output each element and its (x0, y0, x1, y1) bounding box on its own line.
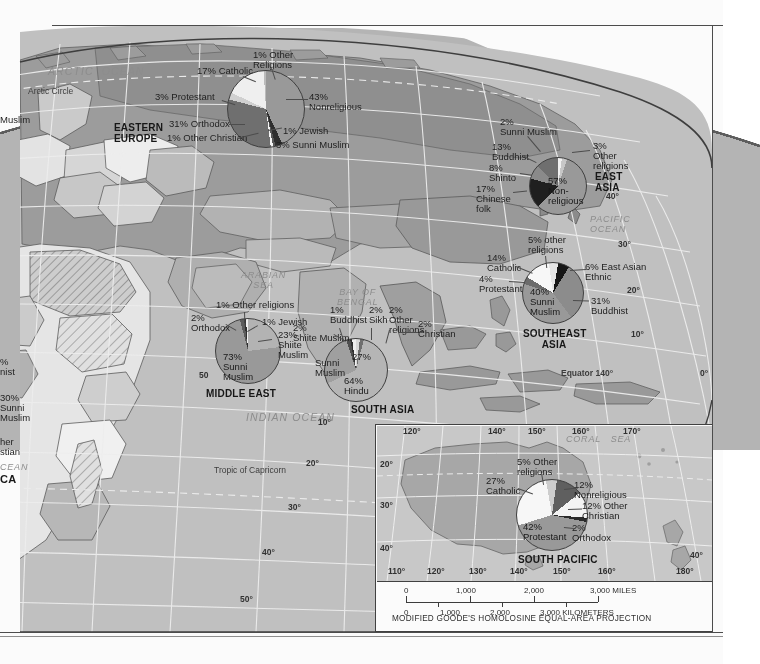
inset-longitude-120-bot: 120° (427, 567, 445, 576)
label-ea-shinto: 8% Shinto (489, 163, 516, 183)
label-ee-protestant: 3% Protestant (155, 92, 215, 102)
label-sea-other-religions: 5% other religions (528, 235, 566, 255)
clipped-label-sunni-muslim: 30% Sunni Muslim (0, 393, 30, 423)
inset-longitude-160-top: 160° (572, 427, 590, 436)
geo-label-equator: Equator 140° (561, 369, 613, 378)
latitude-label-40n: 40° (606, 192, 619, 201)
label-ee-orthodox: 31% Orthodox (169, 119, 230, 129)
inset-south-pacific: SOUTH PACIFIC 5% Other religions 27% Cat… (375, 424, 713, 632)
label-ee-nonreligious: 43% Nonreligious (309, 92, 362, 112)
projection-label: MODIFIED GOODE'S HOMOLOSINE EQUAL-AREA P… (392, 615, 651, 624)
page-border-right (712, 25, 713, 633)
region-label-middle-east: MIDDLE EAST (206, 389, 276, 400)
scale-tick-d (502, 602, 503, 607)
label-sa-sunni-pct: 27% (352, 352, 371, 362)
label-sa-sunni-muslim: Sunni Muslim (315, 358, 345, 378)
inset-longitude-150-top: 150° (528, 427, 546, 436)
label-ea-nonreligious: 57% Non- religious (548, 176, 583, 206)
label-sp-orthodox: 2% Orthodox (572, 523, 611, 543)
label-ee-catholic: 17% Catholic (197, 66, 253, 76)
latitude-label-20n: 20° (627, 286, 640, 295)
inset-longitude-150-bot: 150° (553, 567, 571, 576)
leader-line-sa-2 (371, 328, 372, 340)
label-ea-sunni-muslim: 2% Sunni Muslim (500, 117, 557, 137)
label-sea-catholic: 14% Catholic (487, 253, 521, 273)
longitude-label-50: 50 (199, 371, 208, 380)
label-ea-chinese-folk: 17% Chinese folk (476, 184, 511, 214)
label-ea-buddhist: 13% Buddhist (492, 142, 529, 162)
latitude-label-30n: 30° (618, 240, 631, 249)
latitude-label-30s: 30° (288, 503, 301, 512)
inset-longitude-130-bot: 130° (469, 567, 487, 576)
inset-longitude-140-bot: 140° (510, 567, 528, 576)
label-sea-east-asian-ethnic: 6% East Asian Ethnic (585, 262, 646, 282)
page-border-bottom-secondary (0, 636, 723, 637)
inset-latitude-40: 40° (380, 544, 393, 553)
label-ee-jewish: 1% Jewish (283, 126, 328, 136)
clipped-label-protestant: % nist (0, 357, 15, 377)
label-sea-protestant: 4% Protestant (479, 274, 522, 294)
inset-latitude-30: 30° (380, 501, 393, 510)
region-label-southeast-asia: SOUTHEAST ASIA (523, 329, 585, 350)
inset-longitude-120-top: 120° (403, 427, 421, 436)
page-border-bottom (0, 632, 723, 633)
sea-label-arabian: ARABIAN SEA (241, 271, 286, 290)
latitude-label-0: 0° (700, 369, 708, 378)
clipped-label-other-christian: her stian (0, 437, 20, 457)
latitude-label-50s: 50° (240, 595, 253, 604)
geo-label-tropic-capricorn: Tropic of Capricorn (214, 466, 286, 475)
scale-miles-1000: 1,000 (456, 587, 476, 595)
label-sa-hindu: 64% Hindu (344, 376, 369, 396)
scale-miles-2000: 2,000 (524, 587, 544, 595)
label-me-other-religions: 1% Other religions (216, 300, 294, 310)
label-sp-catholic: 27% Catholic (486, 476, 520, 496)
latitude-label-20s: 20° (306, 459, 319, 468)
page-border-top (52, 25, 723, 26)
label-ee-other-christian: 1% Other Christian (167, 133, 247, 143)
leader-line-ee-4 (229, 124, 245, 125)
label-ee-other-religions: 1% Other Religions (253, 50, 293, 70)
label-sea-sunni-muslim: 40% Sunni Muslim (530, 287, 560, 317)
inset-longitude-110-bot: 110° (388, 567, 405, 576)
label-sp-protestant: 42% Protestant (523, 522, 566, 542)
latitude-label-10n: 10° (631, 330, 644, 339)
label-sp-other-christian: 12% Other Christian (582, 501, 627, 521)
ocean-label-pacific: PACIFIC OCEAN (590, 215, 630, 234)
scale-miles-3000: 3,000 MILES (590, 587, 636, 595)
scale-tick-e (534, 596, 535, 602)
inset-longitude-160-bot: 160° (598, 567, 616, 576)
inset-latitude-40-right: 40° (690, 551, 703, 560)
region-label-east-asia: EAST ASIA (595, 172, 622, 193)
inset-longitude-180-bot: 180° (676, 567, 694, 576)
inset-longitude-170-top: 170° (623, 427, 641, 436)
scale-tick-b (438, 602, 439, 607)
scale-bar: 0 1,000 2,000 3,000 MILES 0 1,000 2,000 … (404, 587, 674, 631)
ocean-label-atlantic-clipped: CEAN (0, 463, 28, 473)
leader-line-ee-6 (286, 99, 308, 100)
label-sa-christian: 2% Christian (418, 319, 456, 339)
label-sa-sikh: 2% Sikh (369, 305, 387, 325)
inset-latitude-20: 20° (380, 460, 393, 469)
region-label-south-asia: SOUTH ASIA (351, 405, 414, 416)
region-label-eastern-europe: EASTERN EUROPE (114, 123, 163, 144)
latitude-label-40s: 40° (262, 548, 275, 557)
latitude-label-10s: 10° (318, 418, 331, 427)
label-ee-sunni-muslim: 3% Sunni Muslim (276, 140, 349, 150)
inset-sea-label-coral: CORAL SEA (566, 435, 631, 445)
scale-tick-a (406, 596, 407, 602)
scale-tick-g (598, 596, 599, 602)
clipped-label-africa: CA (0, 474, 16, 486)
region-label-south-pacific: SOUTH PACIFIC (518, 555, 598, 566)
scale-miles-0: 0 (404, 587, 408, 595)
scale-tick-f (566, 602, 567, 607)
scale-tick-c (470, 596, 471, 602)
ocean-label-arctic: ARCTIC OCEAN (48, 66, 145, 77)
label-me-orthodox: 2% Orthodox (191, 313, 230, 333)
inset-longitude-140-top: 140° (488, 427, 506, 436)
label-ea-other-religions: 3% Other religions (593, 141, 628, 171)
clipped-label-muslim: Muslim (0, 115, 30, 125)
label-sea-buddhist: 31% Buddhist (591, 296, 628, 316)
label-sp-other-religions: 5% Other religions (517, 457, 557, 477)
leader-line-sa-4 (398, 332, 418, 333)
